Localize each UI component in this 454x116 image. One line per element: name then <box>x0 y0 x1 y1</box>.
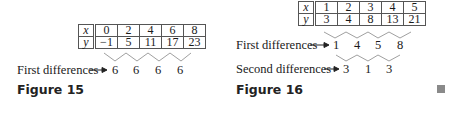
first-difference-value: 4 <box>350 38 364 52</box>
second-difference-value: 3 <box>339 62 353 76</box>
second-difference-value: 3 <box>382 62 396 76</box>
difference-connectors <box>0 0 454 116</box>
first-difference-value: 8 <box>393 38 407 52</box>
first-difference-value: 5 <box>371 38 385 52</box>
first-differences-label: First differences <box>236 38 317 52</box>
first-difference-value: 6 <box>129 63 143 77</box>
second-difference-value: 1 <box>361 62 375 76</box>
first-difference-value: 1 <box>329 38 343 52</box>
first-differences-label: First differences <box>17 63 98 77</box>
end-of-proof-square-icon <box>437 85 445 93</box>
figure-caption: Figure 16 <box>236 82 303 97</box>
first-difference-value: 6 <box>173 63 187 77</box>
second-differences-label: Second differences <box>236 62 331 76</box>
first-difference-value: 6 <box>108 63 122 77</box>
figure-caption: Figure 15 <box>17 82 84 97</box>
first-difference-value: 6 <box>151 63 165 77</box>
